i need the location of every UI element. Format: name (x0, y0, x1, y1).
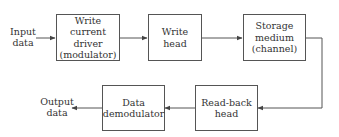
read-back-head-block: Read-back head (195, 85, 258, 131)
data-demodulator-block: Data demodulator (102, 85, 165, 131)
input-data-label: Input data (8, 26, 38, 48)
output-data-label: Output data (40, 96, 74, 118)
write-current-driver-block: Write current driver (modulator) (56, 14, 120, 61)
storage-medium-block: Storage medium (channel) (243, 14, 306, 61)
write-head-block: Write head (148, 14, 202, 61)
